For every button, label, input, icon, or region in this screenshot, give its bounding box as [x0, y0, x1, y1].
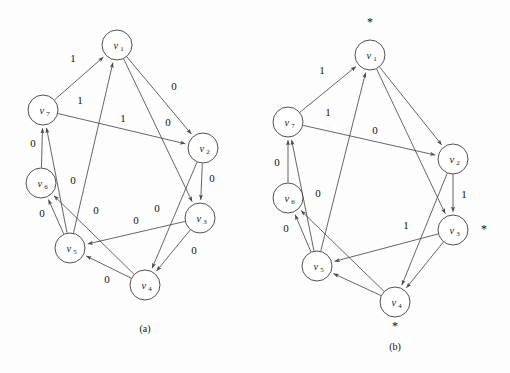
node-panel-b-v2[interactable]: v2	[438, 144, 468, 174]
edge-weight-v4-v6: 0	[315, 187, 321, 199]
node-label-v2: v	[450, 154, 455, 165]
edge-weight-v7-v2: 0	[372, 124, 378, 136]
edge-v3-to-v4	[406, 242, 443, 288]
node-subscript-v3: 3	[456, 230, 460, 238]
edge-v5-to-v1	[321, 73, 366, 251]
node-subscript-v7: 7	[291, 122, 295, 130]
node-panel-b-v7[interactable]: v7	[273, 107, 303, 137]
node-panel-b-v5[interactable]: v5	[302, 251, 332, 281]
edge-weight-v5-v1: 1	[325, 106, 331, 118]
panel-caption-panel-a: (a)	[139, 323, 150, 335]
node-label-v6: v	[38, 178, 43, 189]
edge-v1-to-v2	[380, 67, 442, 145]
star-marks-layer: ***	[367, 15, 487, 333]
panel-captions-layer: (a)(b)	[139, 323, 400, 353]
node-panel-a-v6[interactable]: v6	[26, 168, 56, 198]
node-label-v1: v	[367, 50, 372, 61]
edge-weight-v5-v7: 0	[70, 174, 76, 186]
node-label-v3: v	[450, 225, 455, 236]
node-subscript-v1: 1	[120, 45, 124, 53]
edge-v6-to-v7	[41, 128, 42, 167]
edge-weight-v6-v7: 0	[30, 137, 36, 149]
edge-weight-v2-v3: 1	[461, 188, 467, 200]
node-label-v6: v	[285, 193, 290, 204]
star-mark-panel-b-v1: *	[367, 15, 373, 29]
edge-weight-v3-v5: 0	[133, 214, 139, 226]
node-panel-b-v4[interactable]: v4	[380, 287, 410, 317]
star-mark-panel-b-v3: *	[481, 222, 487, 236]
node-panel-a-v1[interactable]: v1	[102, 30, 132, 60]
node-panel-a-v4[interactable]: v4	[130, 270, 160, 300]
edge-weight-v2-v4: 0	[154, 202, 160, 214]
node-panel-a-v7[interactable]: v7	[28, 95, 58, 125]
nodes-layer: v1v2v3v4v5v6v7v1v2v3v4v5v6v7	[26, 30, 468, 317]
figure-container: v1v2v3v4v5v6v7v1v2v3v4v5v6v7 11100000000…	[0, 0, 510, 373]
node-subscript-v1: 1	[373, 55, 377, 63]
edge-weight-v6-v7: 0	[274, 156, 280, 168]
node-label-v4: v	[142, 280, 147, 291]
node-subscript-v4: 4	[398, 302, 402, 310]
edge-weight-v7-v1: 1	[319, 64, 325, 76]
edge-weight-v5-v6: 0	[283, 222, 289, 234]
node-label-v5: v	[67, 243, 72, 254]
edge-weight-v4-v5: 0	[104, 273, 110, 285]
node-label-v2: v	[200, 143, 205, 154]
star-mark-panel-b-v4: *	[392, 319, 398, 333]
node-panel-a-v2[interactable]: v2	[188, 133, 218, 163]
edge-weight-v1-v2: 0	[171, 80, 177, 92]
node-subscript-v5: 5	[320, 266, 324, 274]
node-panel-b-v3[interactable]: v3	[438, 215, 468, 245]
panel-caption-panel-b: (b)	[389, 341, 401, 353]
node-label-v1: v	[114, 40, 119, 51]
node-subscript-v2: 2	[206, 148, 210, 156]
edge-v1-to-v3	[124, 59, 192, 202]
edge-v3-to-v4	[157, 230, 191, 271]
node-label-v7: v	[40, 105, 45, 116]
node-subscript-v6: 6	[44, 183, 48, 191]
node-panel-b-v6[interactable]: v6	[273, 183, 303, 213]
edge-weight-v1-v3: 0	[165, 116, 171, 128]
edge-weight-v3-v4: 0	[191, 244, 197, 256]
edge-v2-to-v3	[201, 163, 203, 199]
edge-weight-v7-v1: 1	[70, 52, 76, 64]
edge-weight-v2-v4: 1	[403, 219, 409, 231]
node-subscript-v4: 4	[148, 285, 152, 293]
node-subscript-v5: 5	[73, 248, 77, 256]
edge-v3-to-v5	[335, 234, 438, 261]
edge-v5-to-v6	[295, 215, 311, 252]
edge-weights-layer: 1110000000000011011000	[30, 52, 467, 285]
edge-v4-to-v5	[334, 274, 381, 296]
node-label-v7: v	[285, 117, 290, 128]
edges-layer	[41, 57, 453, 296]
node-subscript-v2: 2	[456, 159, 460, 167]
edge-weight-v5-v1: 1	[77, 94, 83, 106]
node-panel-b-v1[interactable]: v1	[355, 40, 385, 70]
node-label-v5: v	[314, 261, 319, 272]
edge-weight-v7-v2: 1	[120, 112, 126, 124]
edge-weight-v4-v6: 0	[93, 204, 99, 216]
node-label-v3: v	[197, 213, 202, 224]
node-subscript-v7: 7	[46, 110, 50, 118]
node-panel-a-v5[interactable]: v5	[55, 233, 85, 263]
edge-v1-to-v3	[377, 69, 446, 214]
edge-weight-v5-v6: 0	[39, 207, 45, 219]
node-subscript-v6: 6	[291, 198, 295, 206]
edge-weight-v2-v3: 0	[209, 172, 215, 184]
node-panel-a-v3[interactable]: v3	[185, 203, 215, 233]
node-subscript-v3: 3	[203, 218, 207, 226]
node-label-v4: v	[392, 297, 397, 308]
edge-v1-to-v2	[127, 57, 191, 134]
graph-svg-canvas: v1v2v3v4v5v6v7v1v2v3v4v5v6v7 11100000000…	[0, 0, 510, 373]
